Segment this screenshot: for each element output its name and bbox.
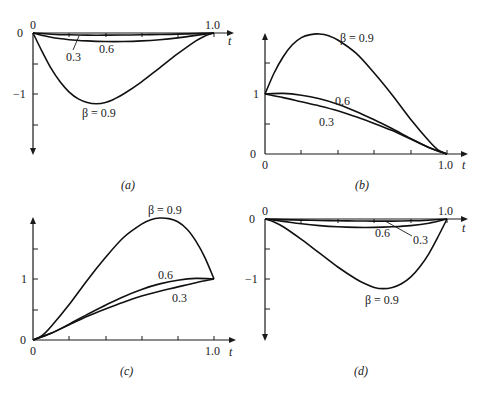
y-axis-arrow-icon [30,148,36,155]
caption-c: (c) [120,364,133,378]
label-beta-0.3: 0.3 [319,115,334,129]
caption-d: (d) [354,364,368,378]
leader-line [73,36,79,50]
curve-beta-0.6 [265,93,447,154]
t-axis-label: t [462,221,466,235]
y-zero-label: 0 [249,212,255,226]
x-axis-arrow-icon [461,151,468,157]
label-beta-0.6: 0.6 [99,42,114,56]
t-axis-label: t [228,34,232,48]
y-axis-arrow-icon [262,33,268,40]
panel-c: 0 0 1 1.0 t β = 0.9 0.6 0.3 (c) [20,203,236,378]
y-axis-arrow-icon [30,217,36,224]
y-zero-label: 0 [17,26,23,40]
y-zero-label: 0 [20,333,26,347]
y-ticks [33,249,38,310]
label-beta-0.3: 0.3 [413,233,428,247]
x-axis-arrow-icon [229,337,236,343]
panel-b: 0 0 1 1.0 t β = 0.9 0.6 0.3 (b) [250,31,468,192]
label-beta-0.6: 0.6 [158,268,173,282]
label-beta-0.9: β = 0.9 [340,31,374,45]
curve-beta-0.9 [265,219,447,289]
x-end-label: 1.0 [438,204,453,218]
y-one-label: 1 [253,87,259,101]
label-beta-0.6: 0.6 [375,226,390,240]
curve-beta-0.3 [265,94,447,154]
t-axis-label: t [462,158,466,172]
panel-a: 0 0 −1 1.0 t 0.3 0.6 β = 0.9 (a) [13,18,234,192]
y-neg1-label: −1 [245,272,258,286]
y-ticks [33,64,38,125]
label-beta-0.3: 0.3 [172,291,187,305]
x-origin-label: 0 [30,18,36,32]
x-origin-label: 0 [30,344,36,358]
label-beta-0.3: 0.3 [66,50,81,64]
y-ticks [265,249,270,309]
curve-beta-0.3 [33,279,214,340]
curve-beta-0.9 [33,33,214,104]
panel-d: 0 0 −1 1.0 t 0.6 0.3 β = 0.9 (d) [245,204,468,378]
figure: 0 0 −1 1.0 t 0.3 0.6 β = 0.9 (a) 0 [0,0,484,393]
x-end-label: 1.0 [205,344,220,358]
label-beta-0.9: β = 0.9 [148,203,182,217]
y-zero-label: 0 [250,147,256,161]
label-beta-0.6: 0.6 [335,94,350,108]
label-beta-0.9: β = 0.9 [82,106,116,120]
curve-beta-0.6 [33,278,214,340]
t-axis-label: t [229,345,233,359]
y-axis-arrow-icon [262,334,268,341]
x-origin-label: 0 [262,158,268,172]
x-end-label: 1.0 [438,158,453,172]
y-neg1-label: −1 [13,87,26,101]
caption-a: (a) [121,178,135,192]
y-one-label: 1 [21,272,27,286]
caption-b: (b) [355,178,369,192]
x-end-label: 1.0 [205,18,220,32]
label-beta-0.9: β = 0.9 [365,293,399,307]
x-origin-label: 0 [262,204,268,218]
